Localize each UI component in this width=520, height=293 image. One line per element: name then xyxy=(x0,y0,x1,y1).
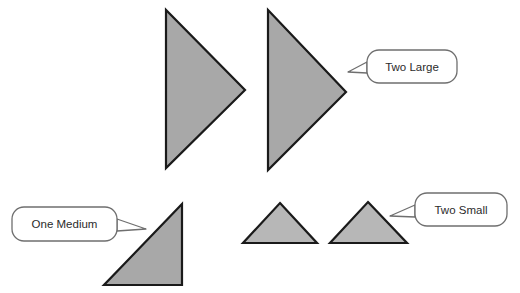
callout-two-large-tail xyxy=(348,62,367,73)
triangle-grouping-diagram: Two Large One Medium Two Small xyxy=(0,0,520,293)
callout-one-medium[interactable]: One Medium xyxy=(12,207,146,241)
callout-one-medium-tail xyxy=(117,219,146,231)
callout-two-small-tail xyxy=(390,205,415,217)
small-triangle-2 xyxy=(330,202,407,243)
callout-two-small[interactable]: Two Small xyxy=(390,193,507,226)
callout-two-small-label: Two Small xyxy=(434,204,487,216)
callout-two-large[interactable]: Two Large xyxy=(348,50,457,83)
callout-two-large-label: Two Large xyxy=(385,61,439,73)
diagram-canvas: Two Large One Medium Two Small xyxy=(0,0,520,293)
shape-group-large xyxy=(166,10,346,170)
callout-one-medium-label: One Medium xyxy=(32,218,98,230)
large-triangle-1 xyxy=(166,10,245,168)
shape-group-small xyxy=(243,202,407,243)
small-triangle-1 xyxy=(243,203,317,243)
large-triangle-2 xyxy=(268,10,346,170)
